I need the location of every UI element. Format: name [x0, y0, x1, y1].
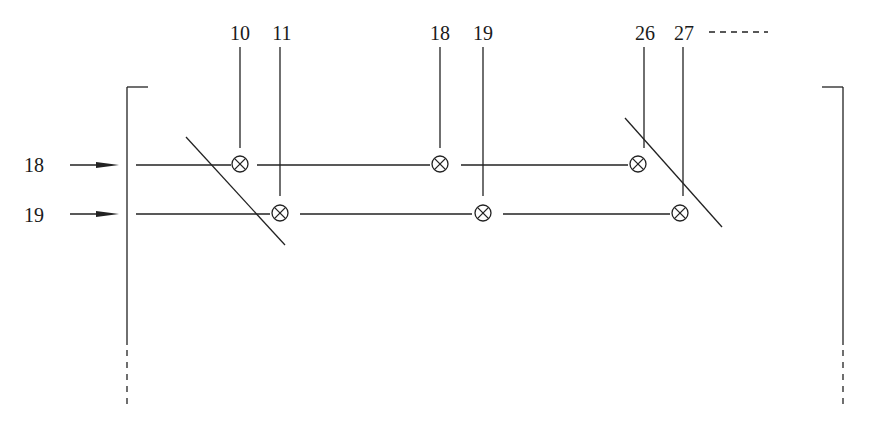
crosspoint-symbol: [232, 156, 248, 172]
column-label: 10: [230, 22, 250, 44]
crosspoint-symbol: [272, 205, 288, 221]
right-bracket: [822, 87, 843, 408]
crosspoint-diagram: 10 11 18 19 26 27 18 19: [0, 0, 882, 434]
crosspoint-symbol: [432, 156, 448, 172]
crosspoint-symbol: [475, 205, 491, 221]
column-label: 19: [473, 22, 493, 44]
column-label: 18: [430, 22, 450, 44]
row-arrow: [70, 211, 119, 217]
crosspoint-symbol: [630, 156, 646, 172]
row-arrow: [70, 162, 119, 168]
row-label: 19: [24, 204, 44, 226]
column-label: 27: [674, 22, 694, 44]
column-label: 26: [635, 22, 655, 44]
left-bracket: [127, 87, 148, 408]
row-label: 18: [24, 154, 44, 176]
crosspoint-symbol: [672, 205, 688, 221]
group-diagonal: [186, 137, 285, 245]
column-label: 11: [272, 22, 291, 44]
